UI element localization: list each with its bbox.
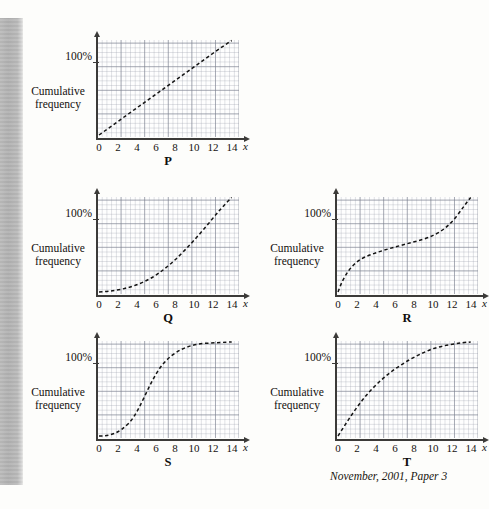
x-axis-variable-P: x <box>243 140 248 152</box>
x-tick-Q-0: 0 <box>96 298 102 310</box>
x-tick-R-14: 14 <box>466 298 477 310</box>
y-tick-label-100-percent: 100% <box>47 50 92 62</box>
x-tick-Q-6: 6 <box>153 298 159 310</box>
y-tick-label-100-percent: 100% <box>286 207 331 219</box>
y-axis-arrow-R <box>333 188 339 194</box>
chart-letter-T: T <box>403 455 411 470</box>
x-tick-labels-Q: 0 2 4 6 8 10 12 14 <box>0 298 250 312</box>
x-tick-P-12: 12 <box>208 141 219 153</box>
curve-T <box>338 342 471 436</box>
x-tick-S-14: 14 <box>227 442 238 454</box>
x-tick-T-8: 8 <box>411 442 417 454</box>
plot-area-S <box>97 341 239 438</box>
chart-Q: 100% Cumulative frequency 0 2 4 6 8 10 1… <box>0 175 250 315</box>
curve-svg-S <box>97 341 239 438</box>
x-tick-Q-10: 10 <box>189 298 200 310</box>
x-tick-P-8: 8 <box>172 141 178 153</box>
x-tick-R-6: 6 <box>392 298 398 310</box>
y-axis-label: Cumulative frequency <box>261 242 333 268</box>
x-tick-Q-14: 14 <box>227 298 238 310</box>
x-axis-line-T <box>335 439 483 441</box>
x-axis-line-Q <box>96 295 244 297</box>
source-reference-footer: November, 2001, Paper 3 <box>330 470 447 482</box>
chart-T: 100% Cumulative frequency 0 2 4 6 8 10 1… <box>239 325 489 465</box>
chart-S: 100% Cumulative frequency 0 2 4 6 8 10 1… <box>0 325 250 465</box>
x-tick-P-0: 0 <box>96 141 102 153</box>
curve-Q <box>99 198 232 293</box>
y-axis-line-T <box>335 337 337 441</box>
y-axis-label-line2: frequency <box>274 399 320 411</box>
chart-letter-Q: Q <box>163 311 173 326</box>
x-tick-labels-P: 0 2 4 6 8 10 12 14 <box>0 141 250 155</box>
y-axis-label: Cumulative frequency <box>22 85 94 111</box>
x-tick-labels-S: 0 2 4 6 8 10 12 14 <box>0 442 250 456</box>
curve-svg-Q <box>97 197 239 294</box>
plot-area-T <box>336 341 478 438</box>
y-tick-mark-R <box>332 219 338 220</box>
y-axis-label-line1: Cumulative <box>270 386 324 398</box>
x-tick-R-8: 8 <box>411 298 417 310</box>
y-axis-arrow-P <box>94 31 100 37</box>
chart-R: 100% Cumulative frequency 0 2 4 6 8 10 1… <box>239 175 489 315</box>
x-tick-P-10: 10 <box>189 141 200 153</box>
x-axis-variable-T: x <box>482 441 487 453</box>
y-axis-label-line1: Cumulative <box>270 242 324 254</box>
x-tick-R-10: 10 <box>428 298 439 310</box>
curve-S <box>99 342 232 436</box>
x-tick-T-14: 14 <box>466 442 477 454</box>
y-tick-mark-Q <box>93 219 99 220</box>
scanned-exam-page: 100% Cumulative frequency 0 2 4 6 8 10 1… <box>0 0 489 509</box>
x-tick-T-0: 0 <box>335 442 341 454</box>
x-axis-line-R <box>335 295 483 297</box>
y-tick-mark-T <box>332 363 338 364</box>
y-axis-label: Cumulative frequency <box>22 386 94 412</box>
y-axis-line-R <box>335 193 337 297</box>
y-axis-label-line2: frequency <box>35 98 81 110</box>
x-tick-R-0: 0 <box>335 298 341 310</box>
x-tick-S-2: 2 <box>115 442 121 454</box>
x-tick-P-6: 6 <box>153 141 159 153</box>
y-tick-label-100-percent: 100% <box>47 351 92 363</box>
x-axis-line-S <box>96 439 244 441</box>
x-tick-P-14: 14 <box>227 141 238 153</box>
x-tick-S-12: 12 <box>208 442 219 454</box>
x-axis-line-P <box>96 138 244 140</box>
plot-area-R <box>336 197 478 294</box>
y-tick-mark-S <box>93 363 99 364</box>
chart-letter-P: P <box>164 154 172 169</box>
x-tick-Q-12: 12 <box>208 298 219 310</box>
curve-R <box>338 198 471 293</box>
chart-P: 100% Cumulative frequency 0 2 4 6 8 10 1… <box>0 18 250 158</box>
x-tick-Q-8: 8 <box>172 298 178 310</box>
x-tick-S-4: 4 <box>134 442 140 454</box>
y-axis-label-line1: Cumulative <box>31 386 85 398</box>
curve-P <box>99 41 232 136</box>
y-axis-label-line1: Cumulative <box>31 85 85 97</box>
x-tick-labels-R: 0 2 4 6 8 10 12 14 <box>239 298 489 312</box>
x-tick-Q-4: 4 <box>134 298 140 310</box>
y-axis-arrow-T <box>333 332 339 338</box>
y-axis-label: Cumulative frequency <box>261 386 333 412</box>
y-axis-label: Cumulative frequency <box>22 242 94 268</box>
x-tick-T-12: 12 <box>447 442 458 454</box>
plot-area-P <box>97 40 239 137</box>
x-tick-labels-T: 0 2 4 6 8 10 12 14 <box>239 442 489 456</box>
x-tick-P-4: 4 <box>134 141 140 153</box>
x-tick-R-2: 2 <box>354 298 360 310</box>
x-tick-P-2: 2 <box>115 141 121 153</box>
x-tick-T-2: 2 <box>354 442 360 454</box>
y-tick-mark-P <box>93 62 99 63</box>
x-tick-R-12: 12 <box>447 298 458 310</box>
curve-svg-T <box>336 341 478 438</box>
curve-svg-P <box>97 40 239 137</box>
x-tick-T-4: 4 <box>373 442 379 454</box>
chart-letter-S: S <box>165 455 172 470</box>
y-axis-label-line2: frequency <box>35 255 81 267</box>
chart-letter-R: R <box>402 311 411 326</box>
y-axis-line-P <box>96 36 98 140</box>
y-axis-arrow-S <box>94 332 100 338</box>
y-axis-label-line2: frequency <box>274 255 320 267</box>
y-axis-label-line2: frequency <box>35 399 81 411</box>
x-tick-S-0: 0 <box>96 442 102 454</box>
y-axis-arrow-Q <box>94 188 100 194</box>
